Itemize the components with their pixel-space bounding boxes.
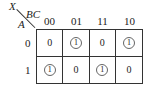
circled-value: 1 — [96, 64, 108, 76]
kmap-cell-a1-bc00: 1 — [37, 57, 63, 84]
circled-value: 1 — [70, 37, 82, 49]
circled-value: 1 — [44, 64, 56, 76]
row-header-1: 1 — [25, 65, 31, 76]
circled-value: 1 — [123, 37, 135, 49]
cell-value: 0 — [126, 64, 131, 75]
row-header-0: 0 — [25, 38, 31, 49]
column-header-00: 00 — [36, 16, 63, 27]
row-variable-label: A — [18, 19, 25, 30]
cell-value: 0 — [100, 37, 105, 48]
kmap-cell-a0-bc11: 0 — [90, 30, 116, 57]
kmap-grid: 0 1 0 1 1 0 1 0 — [36, 29, 143, 84]
cell-value: 0 — [47, 37, 52, 48]
kmap-cell-a0-bc01: 1 — [63, 30, 89, 57]
output-variable-label: X — [9, 1, 16, 12]
kmap-cell-a0-bc10: 1 — [116, 30, 142, 57]
kmap-cell-a0-bc00: 0 — [37, 30, 63, 57]
kmap-cell-a1-bc10: 0 — [116, 57, 142, 84]
column-header-10: 10 — [116, 16, 143, 27]
kmap-cell-a1-bc11: 1 — [90, 57, 116, 84]
cell-value: 0 — [73, 64, 78, 75]
column-header-11: 11 — [89, 16, 116, 27]
kmap-cell-a1-bc01: 0 — [63, 57, 89, 84]
column-header-01: 01 — [63, 16, 90, 27]
